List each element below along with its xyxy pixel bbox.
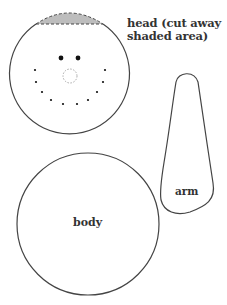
head-outline [10,24,130,134]
eye-dot-left [59,56,64,61]
pattern-diagram [0,0,227,305]
arm-label: arm [175,185,198,197]
mouth-dots [34,69,106,105]
body-label: body [73,216,102,229]
head-label-line2: shaded area) [127,30,221,43]
eye-dot-right [76,56,81,61]
head-piece [10,13,130,134]
head-label: head (cut away shaded area) [127,17,221,43]
nose-dotted-circle [63,69,77,83]
